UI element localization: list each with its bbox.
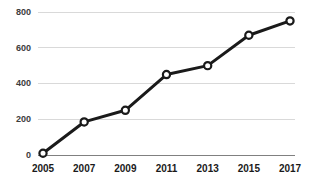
x-axis-tick-label: 2009 xyxy=(114,163,137,174)
x-axis-tick-label: 2005 xyxy=(32,163,55,174)
x-axis-tick-label: 2007 xyxy=(73,163,96,174)
y-axis-tick-label: 200 xyxy=(16,114,31,124)
data-point-marker xyxy=(204,62,211,69)
data-point-marker xyxy=(163,71,170,78)
y-axis-tick-label: 600 xyxy=(16,43,31,53)
chart-canvas: 0200400600800 20052007200920112013201520… xyxy=(0,0,312,182)
y-axis-tick-label: 0 xyxy=(26,150,31,160)
line-chart: 0200400600800 20052007200920112013201520… xyxy=(0,0,312,182)
x-axis-tick-label: 2011 xyxy=(156,163,178,174)
data-series-line xyxy=(43,21,290,153)
data-point-markers xyxy=(39,17,293,156)
data-point-marker xyxy=(286,17,293,24)
y-axis-tick-label: 800 xyxy=(16,7,31,17)
x-axis-tick-label: 2017 xyxy=(279,163,302,174)
data-point-marker xyxy=(245,32,252,39)
x-axis-tick-label: 2013 xyxy=(197,163,220,174)
series-line xyxy=(43,21,290,153)
x-axis-tick-label: 2015 xyxy=(238,163,261,174)
y-axis-tick-label: 400 xyxy=(16,78,31,88)
data-point-marker xyxy=(39,150,46,157)
x-axis-tick-labels: 2005200720092011201320152017 xyxy=(32,163,302,174)
y-axis-tick-labels: 0200400600800 xyxy=(16,7,31,160)
gridline-group xyxy=(38,12,295,119)
data-point-marker xyxy=(122,107,129,114)
data-point-marker xyxy=(81,118,88,125)
